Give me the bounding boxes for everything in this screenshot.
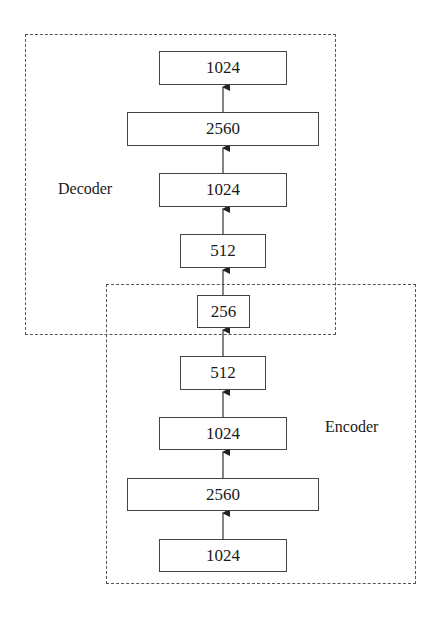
encoder-layer-input: 1024 [159,539,287,572]
decoder-layer-4: 512 [180,234,266,268]
decoder-layer-2: 2560 [127,112,319,146]
encoder-label: Encoder [325,418,378,436]
encoder-layer-3: 1024 [159,417,287,450]
decoder-layer-3: 1024 [159,173,287,207]
encoder-layer-2: 2560 [127,478,319,511]
bottleneck-layer: 256 [197,295,250,328]
decoder-label: Decoder [58,180,112,198]
decoder-layer-output: 1024 [159,51,287,85]
encoder-layer-4: 512 [180,356,266,390]
